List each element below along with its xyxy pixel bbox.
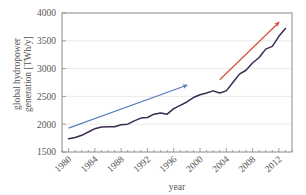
x-tick-label: 1996 (158, 154, 179, 174)
x-tick-label: 2008 (237, 154, 258, 174)
y-tick-label: 4000 (37, 8, 56, 18)
x-tick-label: 1984 (79, 154, 100, 174)
y-axis-title: global hydropower generation [TWh/y] (12, 36, 33, 112)
x-axis-title: year (169, 182, 186, 192)
x-tick-labels: 198019841988199219962000200420082012 (53, 154, 284, 174)
x-tick-label: 1988 (105, 154, 126, 174)
y-tick-label: 2500 (37, 92, 56, 102)
x-tick-label: 2004 (210, 154, 231, 174)
y-axis-title-line2: generation [TWh/y] (23, 36, 33, 112)
x-tick-label: 2012 (263, 154, 284, 174)
y-axis-title-line1: global hydropower (12, 37, 22, 110)
x-tick-label: 1992 (131, 154, 152, 174)
hydropower-generation-figure: 150020002500300035004000 198019841988199… (0, 0, 306, 195)
y-tick-labels: 150020002500300035004000 (37, 8, 56, 157)
plot-background (62, 13, 292, 152)
x-tick-label: 2000 (184, 154, 205, 174)
y-tick-label: 3000 (37, 64, 56, 74)
y-tick-label: 3500 (37, 36, 56, 46)
y-tick-label: 1500 (37, 147, 56, 157)
y-tick-label: 2000 (37, 120, 56, 130)
chart-canvas: 150020002500300035004000 198019841988199… (0, 0, 306, 195)
